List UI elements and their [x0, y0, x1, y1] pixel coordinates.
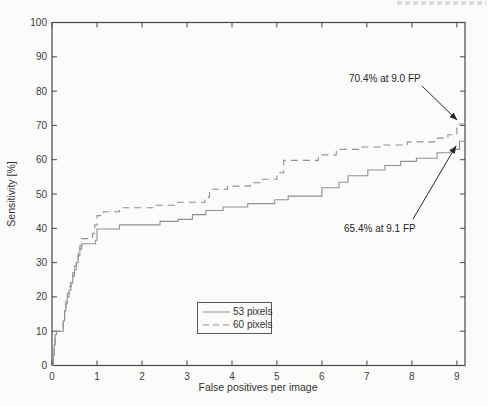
y-tick-label: 90	[36, 51, 48, 62]
y-tick-label: 80	[36, 86, 48, 97]
x-tick-label: 9	[454, 371, 460, 382]
legend: 53 pixels 60 pixels	[197, 302, 272, 334]
x-tick-label: 8	[409, 371, 415, 382]
x-tick-label: 6	[319, 371, 325, 382]
legend-entry-60-pixels: 60 pixels	[203, 318, 271, 331]
y-tick-label: 50	[36, 189, 48, 200]
annotations: 70.4% at 9.0 FP65.4% at 9.1 FP	[344, 73, 457, 234]
y-tick-label: 60	[36, 154, 48, 165]
y-tick-label: 70	[36, 120, 48, 131]
x-tick-label: 1	[94, 371, 100, 382]
y-tick-label: 20	[36, 291, 48, 302]
annotation-text-0: 70.4% at 9.0 FP	[349, 73, 421, 84]
x-tick-label: 2	[139, 371, 145, 382]
annotation-arrow-0	[422, 86, 457, 120]
y-tick-label: 10	[36, 326, 48, 337]
scanned-figure-canvas: 01234567890102030405060708090100 70.4% a…	[0, 0, 488, 406]
y-axis-label: Sensitivity [%]	[5, 161, 17, 226]
x-tick-label: 7	[364, 371, 370, 382]
annotation-arrow-1	[413, 146, 456, 219]
froc-chart: 01234567890102030405060708090100 70.4% a…	[0, 0, 488, 406]
y-tick-label: 0	[41, 360, 47, 371]
legend-entry-53-pixels: 53 pixels	[203, 305, 271, 318]
y-tick-label: 40	[36, 223, 48, 234]
x-axis-label: False positives per image	[198, 381, 317, 393]
x-tick-label: 0	[49, 371, 55, 382]
solid-line-sample-icon	[203, 310, 230, 314]
annotation-text-1: 65.4% at 9.1 FP	[344, 223, 416, 234]
legend-label: 60 pixels	[233, 319, 272, 330]
dashed-line-sample-icon	[203, 323, 230, 327]
y-tick-label: 30	[36, 257, 48, 268]
y-tick-label: 100	[30, 17, 47, 28]
legend-label: 53 pixels	[233, 306, 272, 317]
x-tick-label: 3	[184, 371, 190, 382]
